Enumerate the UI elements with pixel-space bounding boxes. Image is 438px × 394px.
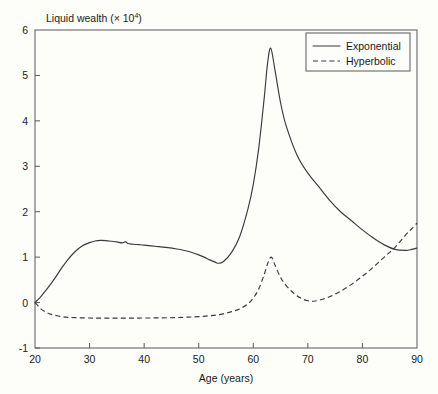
series-line-hyperbolic — [35, 223, 417, 318]
x-tick-label: 30 — [84, 353, 96, 365]
x-tick-label: 90 — [411, 353, 423, 365]
y-tick-label: 3 — [22, 160, 28, 172]
y-tick-label: 2 — [22, 206, 28, 218]
series-line-exponential — [35, 48, 417, 302]
x-tick-label: 40 — [138, 353, 150, 365]
chart-legend: Exponential Hyperbolic — [306, 33, 410, 71]
plot-frame — [35, 30, 417, 348]
y-axis-title-tail: ) — [138, 12, 142, 24]
liquid-wealth-line-chart: -10123456 2030405060708090 Liquid wealth… — [0, 0, 438, 394]
y-tick-label: 0 — [22, 297, 28, 309]
x-tick-label: 80 — [357, 353, 369, 365]
x-tick-label: 70 — [302, 353, 314, 365]
x-axis-tick-marks — [90, 343, 363, 348]
y-tick-label: 5 — [22, 69, 28, 81]
x-tick-label: 20 — [29, 353, 41, 365]
data-series-group — [35, 48, 417, 318]
y-axis-tick-marks — [35, 75, 40, 348]
y-tick-label: 1 — [22, 251, 28, 263]
x-axis-tick-labels: 2030405060708090 — [29, 353, 423, 365]
legend-label-hyperbolic: Hyperbolic — [346, 55, 396, 67]
x-axis-title: Age (years) — [199, 372, 253, 384]
y-tick-label: -1 — [19, 342, 28, 354]
y-tick-label: 4 — [22, 115, 28, 127]
x-tick-label: 50 — [193, 353, 205, 365]
chart-figure: -10123456 2030405060708090 Liquid wealth… — [0, 0, 438, 394]
y-tick-label: 6 — [22, 24, 28, 36]
legend-label-exponential: Exponential — [346, 40, 401, 52]
x-tick-label: 60 — [247, 353, 259, 365]
y-axis-title-text: Liquid wealth (× 10 — [46, 12, 135, 24]
svg-text:Liquid wealth (× 104): Liquid wealth (× 104) — [46, 12, 142, 24]
y-axis-tick-labels: -10123456 — [19, 24, 29, 354]
x-axis-title-text: Age (years) — [199, 372, 253, 384]
y-axis-title: Liquid wealth (× 104) — [46, 12, 142, 24]
